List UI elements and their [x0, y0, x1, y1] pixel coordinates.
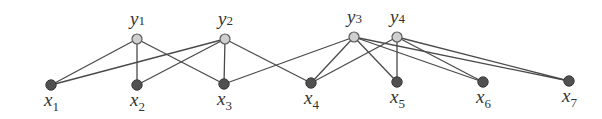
label-base: y — [128, 8, 139, 29]
label-base: y — [388, 6, 399, 27]
label-y2: y2 — [216, 8, 233, 29]
node-y2 — [220, 34, 230, 44]
label-x7: x7 — [561, 85, 577, 110]
edge-y1-x1 — [51, 39, 137, 85]
edge-y2-x3 — [224, 39, 225, 84]
label-subscript: 2 — [138, 99, 145, 114]
node-y1 — [132, 34, 142, 44]
label-base: y — [345, 6, 356, 27]
edge-y4-x4 — [311, 37, 397, 83]
label-subscript: 3 — [355, 11, 362, 26]
label-subscript: 1 — [52, 99, 59, 114]
label-subscript: 7 — [570, 95, 577, 110]
node-y3 — [349, 32, 359, 42]
label-subscript: 4 — [312, 97, 319, 112]
label-subscript: 2 — [226, 13, 233, 28]
edge-y3-x3 — [224, 37, 354, 84]
label-y3: y3 — [345, 6, 362, 27]
label-subscript: 4 — [398, 11, 405, 26]
edge-y3-x5 — [354, 37, 397, 82]
label-subscript: 1 — [138, 13, 145, 28]
label-x2: x2 — [129, 89, 145, 114]
nodes-layer — [46, 32, 574, 90]
label-subscript: 6 — [484, 96, 491, 111]
label-x6: x6 — [475, 86, 491, 111]
edge-y4-x6 — [397, 37, 483, 82]
edge-y4-x7 — [397, 37, 569, 81]
edge-y2-x1 — [51, 39, 225, 85]
label-base: y — [216, 8, 227, 29]
label-subscript: 3 — [225, 98, 232, 113]
label-subscript: 5 — [398, 96, 405, 111]
edge-y2-x4 — [225, 39, 311, 83]
edge-y3-x4 — [311, 37, 354, 83]
node-y4 — [392, 32, 402, 42]
label-x1: x1 — [43, 89, 59, 114]
labels-layer: y1y2y3y4x1x2x3x4x5x6x7 — [43, 6, 577, 114]
label-x5: x5 — [389, 86, 405, 111]
label-y4: y4 — [388, 6, 405, 27]
label-x3: x3 — [216, 88, 232, 113]
bipartite-graph: y1y2y3y4x1x2x3x4x5x6x7 — [0, 0, 602, 119]
label-x4: x4 — [303, 87, 319, 112]
label-y1: y1 — [128, 8, 145, 29]
